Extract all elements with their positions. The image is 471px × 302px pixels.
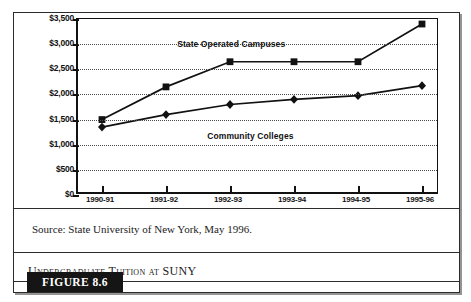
gridline — [78, 145, 437, 146]
y-axis-tick-label: $3,500 — [49, 13, 74, 23]
x-axis-tick-mark — [102, 186, 104, 193]
x-axis-tick-mark — [422, 186, 424, 193]
x-axis-tick-label: 1995-96 — [406, 195, 434, 204]
data-point-diamond — [290, 95, 298, 104]
x-axis-tick-mark — [166, 186, 168, 193]
data-point-diamond — [418, 81, 426, 90]
annotation-state-operated-campuses: State Operated Campuses — [177, 39, 285, 49]
data-point-square — [355, 58, 362, 65]
data-point-diamond — [226, 100, 234, 109]
y-axis-tick-label: $2,000 — [49, 88, 74, 98]
y-axis-tick-label: $0 — [65, 189, 74, 199]
plot-wrapper: $3,500$3,000$2,500$2,000$1,500$1,000$500… — [14, 13, 459, 208]
data-point-square — [419, 21, 426, 28]
data-point-diamond — [98, 123, 106, 132]
gridline — [78, 94, 437, 95]
chart-block: $3,500$3,000$2,500$2,000$1,500$1,000$500… — [14, 13, 459, 209]
y-axis-tick-mark — [73, 19, 79, 21]
y-axis-tick-label: $2,500 — [49, 63, 74, 73]
x-axis-tick-mark — [358, 186, 360, 193]
x-axis-tick-label: 1992-93 — [214, 195, 242, 204]
data-point-square — [227, 58, 234, 65]
source-row: Source: State University of New York, Ma… — [14, 209, 459, 253]
y-axis-tick-label: $1,500 — [49, 114, 74, 124]
x-axis-tick-label: 1991-92 — [150, 195, 178, 204]
x-axis-tick-label: 1990-91 — [86, 195, 114, 204]
annotation-community-colleges: Community Colleges — [207, 131, 293, 141]
y-axis-tick-label: $1,000 — [49, 139, 74, 149]
y-axis-labels: $3,500$3,000$2,500$2,000$1,500$1,000$500… — [22, 13, 74, 208]
data-point-diamond — [162, 110, 170, 119]
data-point-square — [163, 83, 170, 90]
y-axis-tick-mark — [73, 195, 79, 197]
x-axis-tick-label: 1994-95 — [342, 195, 370, 204]
source-text: Source: State University of New York, Ma… — [32, 223, 252, 235]
figure-tag-label: FIGURE 8.6 — [27, 272, 123, 292]
y-axis-tick-label: $500 — [56, 164, 74, 174]
series-line-diamond — [102, 86, 422, 127]
data-point-square — [291, 58, 298, 65]
y-axis-tick-label: $3,000 — [49, 38, 74, 48]
figure-page: $3,500$3,000$2,500$2,000$1,500$1,000$500… — [0, 0, 471, 302]
x-axis-tick-label: 1993-94 — [278, 195, 306, 204]
gridline — [78, 69, 437, 70]
x-axis-tick-mark — [230, 186, 232, 193]
data-point-diamond — [354, 91, 362, 100]
x-axis-tick-mark — [294, 186, 296, 193]
gridline — [78, 120, 437, 121]
gridline — [78, 170, 437, 171]
figure-frame: $3,500$3,000$2,500$2,000$1,500$1,000$500… — [13, 12, 460, 293]
